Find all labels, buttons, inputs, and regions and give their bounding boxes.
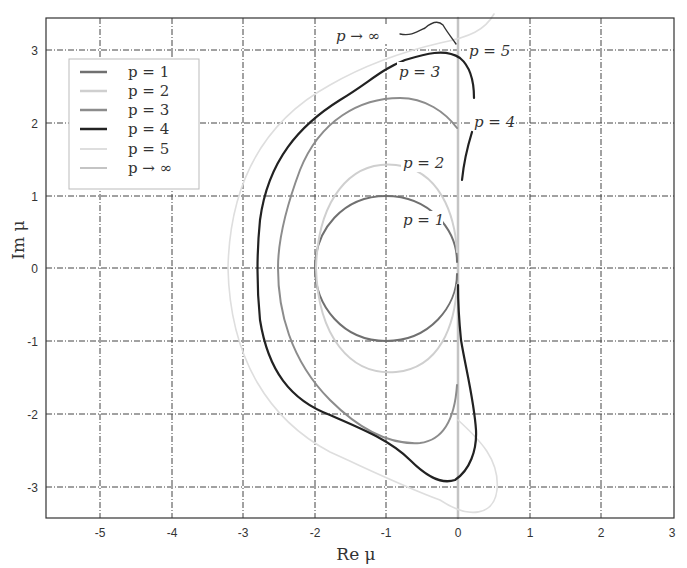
y-tick: 0 [31,262,38,276]
y-axis-ticks: 3 2 1 0 -1 -2 -3 [27,44,38,495]
x-tick: -1 [381,526,392,540]
legend-label-p-infinity: p → ∞ [128,159,172,177]
curve-p4 [258,53,476,482]
legend-label-p5: p = 5 [128,140,169,158]
curves [228,14,497,518]
x-axis-label: Re μ [336,544,375,564]
chart: p = 1 p = 2 p = 3 p = 4 p = 5 p → ∞ p → … [0,0,687,568]
annotation-p-infinity: p → ∞ [336,27,380,45]
x-tick: 1 [527,526,534,540]
x-tick: -3 [238,526,249,540]
legend-label-p4: p = 4 [128,120,169,138]
y-tick: 1 [31,190,38,204]
x-axis-ticks: -5 -4 -3 -2 -1 0 1 2 3 [95,526,676,540]
x-tick: -2 [310,526,321,540]
y-tick: 3 [31,44,38,58]
annotations: p → ∞ p = 5 p = 3 p = 4 p = 2 p = 1 [333,26,516,229]
y-tick: -1 [27,335,38,349]
annotation-p1: p = 1 [403,211,444,229]
annotation-p5: p = 5 [469,42,510,60]
y-tick: -3 [27,481,38,495]
y-tick: 2 [31,117,38,131]
x-tick: -4 [167,526,178,540]
annotation-p2: p = 2 [403,154,444,172]
x-tick: 0 [455,526,462,540]
curve-p3 [278,98,457,443]
x-tick: 3 [669,526,676,540]
x-tick: 2 [598,526,605,540]
annotation-p4: p = 4 [474,113,515,131]
y-axis-label: Im μ [8,220,28,259]
legend-label-p2: p = 2 [128,82,169,100]
legend: p = 1 p = 2 p = 3 p = 4 p = 5 p → ∞ [69,59,199,189]
x-tick: -5 [95,526,106,540]
annotation-p3: p = 3 [399,63,440,81]
y-tick: -2 [27,408,38,422]
legend-label-p1: p = 1 [128,63,169,81]
legend-label-p3: p = 3 [128,101,169,119]
